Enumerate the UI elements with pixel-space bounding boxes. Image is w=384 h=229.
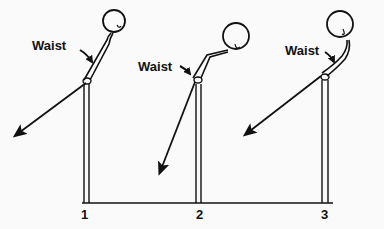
position-number-1: 1 — [81, 208, 88, 221]
diagram-drawing — [0, 0, 384, 229]
head-3 — [327, 11, 353, 37]
waist-pointer-1 — [80, 50, 92, 62]
bar-post-2 — [196, 84, 201, 203]
waist-pointer-2 — [180, 66, 190, 74]
waist-label-1: Waist — [32, 39, 66, 52]
leg-arrow-3 — [246, 76, 321, 134]
figure-2 — [160, 23, 249, 203]
waist-label-3: Waist — [285, 44, 319, 57]
figure-3 — [246, 11, 353, 203]
head-2 — [223, 23, 249, 49]
leg-arrow-1 — [16, 83, 86, 135]
leg-arrow-2 — [160, 82, 195, 172]
head-1 — [103, 10, 125, 32]
waist-label-2: Waist — [138, 60, 172, 73]
body-2 — [193, 50, 228, 78]
position-number-2: 2 — [196, 208, 203, 221]
bar-post-3 — [322, 80, 328, 203]
waist-pointer-3 — [325, 52, 334, 62]
position-number-3: 3 — [321, 208, 328, 221]
diagram-canvas: Waist Waist Waist 1 2 3 — [0, 0, 384, 229]
bar-post-1 — [84, 84, 89, 203]
body-3 — [322, 40, 350, 76]
